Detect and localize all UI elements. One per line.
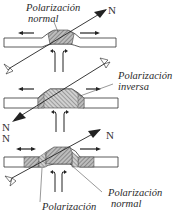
upwelling-arrows <box>51 110 69 132</box>
north-label-bottom-right: N <box>106 129 114 141</box>
magnetized-zone-center-normal <box>46 147 72 164</box>
label-middle-line1: Polarización <box>118 70 172 81</box>
label-leader <box>80 84 113 96</box>
north-label-top: N <box>108 4 116 16</box>
label-leader-bottom <box>40 168 42 202</box>
panel-top <box>4 9 116 74</box>
spreading-arrow-right <box>80 147 101 151</box>
magnetized-stripe-left <box>38 94 44 108</box>
panel-bottom <box>4 129 118 202</box>
label-top-line2: normal <box>28 13 58 24</box>
label-leader-right <box>70 164 102 192</box>
magnetized-stripe-left-normal <box>24 157 39 167</box>
magnetized-stripe-right <box>78 94 84 108</box>
upwelling-arrows <box>50 49 68 72</box>
magnetized-stripe-right-normal <box>78 157 94 167</box>
magnetized-stripe-left-reverse <box>39 152 46 167</box>
label-middle-line2: inversa <box>118 81 149 92</box>
upwelling-arrows <box>50 170 67 192</box>
spreading-arrow-right <box>80 31 100 35</box>
spreading-arrow-left <box>18 87 34 91</box>
label-bottom-right-line2: normal <box>111 198 141 209</box>
diagram-canvas <box>0 0 176 213</box>
label-bottom-right-line1: Polarización <box>108 187 162 198</box>
north-label-bottom-left: N <box>2 132 10 144</box>
panel-middle <box>4 58 118 132</box>
spreading-arrow-left <box>18 31 34 35</box>
spreading-arrow-left <box>16 147 36 151</box>
label-top-line1: Polarización <box>26 2 80 13</box>
label-bottom-center: Polarización <box>42 201 96 212</box>
seafloor-spreading-polarity-diagram: Polarización normal N Polarización inver… <box>0 0 176 213</box>
